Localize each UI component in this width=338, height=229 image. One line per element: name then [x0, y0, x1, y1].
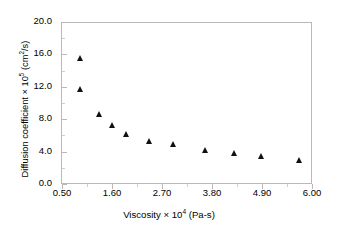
y-axis-title-unit: (cm	[20, 55, 30, 73]
data-point-marker	[77, 86, 83, 92]
y-tick-mark	[62, 22, 67, 23]
data-point-marker	[258, 153, 264, 159]
y-tick-mark	[62, 152, 67, 153]
plot-area	[61, 22, 312, 184]
figure: 0.04.08.012.016.020.0 0.501.602.703.804.…	[0, 0, 338, 229]
x-minor-tick-mark	[287, 184, 288, 187]
y-axis-title-exponent: 5	[18, 73, 25, 77]
x-minor-tick-mark	[187, 184, 188, 187]
x-axis-title-text: Viscosity	[123, 209, 163, 220]
data-point-marker	[77, 55, 83, 61]
data-point-marker	[146, 138, 152, 144]
x-minor-tick-mark	[87, 184, 88, 187]
x-minor-tick-mark	[137, 184, 138, 187]
x-tick-label: 3.80	[203, 187, 222, 198]
data-point-marker	[109, 122, 115, 128]
x-tick-label: 6.00	[303, 187, 322, 198]
x-axis-title: Viscosity × 104 (Pa-s)	[0, 208, 338, 220]
x-tick-label: 2.70	[153, 187, 172, 198]
x-minor-tick-mark	[237, 184, 238, 187]
y-tick-mark	[62, 54, 67, 55]
y-axis-title-text: Diffusion coefficient	[20, 95, 30, 178]
x-axis-title-multiplier: × 10	[163, 209, 182, 220]
data-point-marker	[202, 147, 208, 153]
data-point-marker	[296, 157, 302, 163]
x-axis-title-unit: (Pa-s)	[186, 209, 215, 220]
x-tick-label: 0.50	[53, 187, 72, 198]
y-minor-tick-mark	[62, 38, 65, 39]
y-tick-mark	[62, 119, 67, 120]
y-minor-tick-mark	[62, 71, 65, 72]
data-point-marker	[123, 131, 129, 137]
x-tick-label: 1.60	[103, 187, 122, 198]
y-minor-tick-mark	[62, 135, 65, 136]
y-minor-tick-mark	[62, 168, 65, 169]
x-tick-label: 4.90	[253, 187, 272, 198]
y-axis-title-unit-tail: /s)	[20, 41, 30, 51]
data-point-marker	[170, 141, 176, 147]
y-axis-title: Diffusion coefficient × 105 (cm2/s)	[18, 24, 30, 194]
data-point-marker	[96, 111, 102, 117]
y-tick-mark	[62, 87, 67, 88]
y-axis-title-multiplier: × 10	[20, 76, 30, 94]
y-axis-title-unit-exponent: 2	[18, 51, 25, 55]
data-point-marker	[231, 150, 237, 156]
y-minor-tick-mark	[62, 103, 65, 104]
